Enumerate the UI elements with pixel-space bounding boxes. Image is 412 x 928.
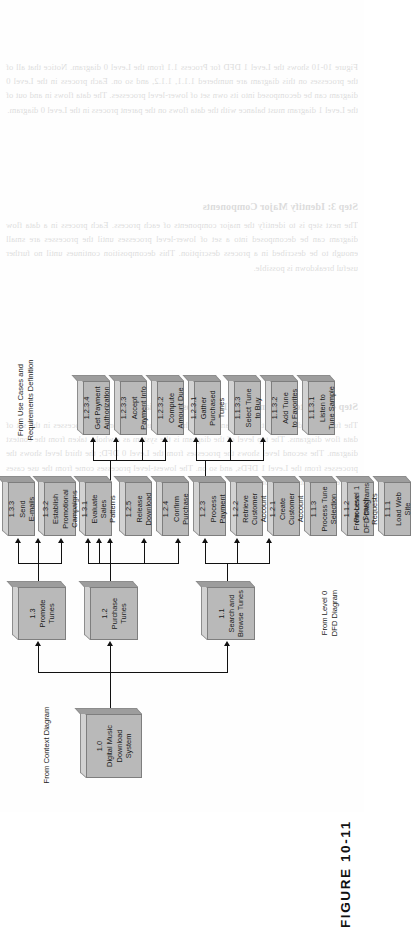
node-title: Establish Promotional Campaigns <box>51 489 79 528</box>
node-title: Retrieve Customer Account <box>241 485 269 533</box>
node-1-2-3[interactable]: 1.2.3 Process Payment <box>193 482 226 536</box>
node-1-3[interactable]: 1.3 Promote Tunes <box>12 587 66 640</box>
node-number: 1.1.2 <box>342 501 351 517</box>
connector-to-1-1-3 <box>205 542 206 564</box>
node-face: 1.2.5 Release Download <box>125 482 152 536</box>
node-title: Send E-mails <box>18 497 36 522</box>
arrow-to-1-2 <box>107 641 113 646</box>
node-1-1-3-3[interactable]: 1.1.3.3 Select Tune to Buy <box>228 381 261 435</box>
connector-to-1-3-1 <box>61 542 62 564</box>
node-title: Accept Payment Info <box>130 386 148 430</box>
node-title: Gather Purchased Tunes <box>199 384 227 432</box>
node-1-2-3-2[interactable]: 1.2.3.2 Compute Amount Due <box>151 381 184 435</box>
node-1-2-1[interactable]: 1.2.1 Create Customer Account <box>267 482 300 536</box>
arrow-to-1-2-3-3 <box>113 437 119 442</box>
node-number: 1.2.3.4 <box>82 397 91 420</box>
connector-to-1-3-3 <box>18 542 19 564</box>
arrow-to-1-1-1 <box>266 538 272 543</box>
connector-to-1-2-3-4 <box>93 441 94 461</box>
node-1-2-2[interactable]: 1.2.2 Retrieve Customer Account <box>230 482 263 536</box>
node-title: Load Web Site <box>394 492 412 526</box>
node-1-3-1[interactable]: 1.3.1 Evaluate Sales Patterns <box>79 482 112 536</box>
arrow-to-1-1-3-3 <box>193 437 199 442</box>
arrow-to-1-2-1 <box>175 538 181 543</box>
arrow-to-1-2-4 <box>96 538 102 543</box>
connector-to-1-1-3-2 <box>230 441 231 461</box>
node-title: Add Tune to Favorites <box>281 389 299 428</box>
connector-level1-spine <box>38 672 228 673</box>
node-title: Select Tune to Buy <box>244 388 262 427</box>
node-number: 1.2.3.3 <box>119 397 128 420</box>
arrow-to-1-3 <box>35 641 41 646</box>
connector-to-1-1-1 <box>269 542 270 564</box>
node-number: 1.1.3 <box>309 501 318 517</box>
connector-to-1-2-3-2 <box>142 441 143 461</box>
node-1-1-3-1[interactable]: 1.1.3.1 Listen to Tune Sample <box>302 381 335 435</box>
node-1-2-3-4[interactable]: 1.2.3.4 Get Payment Authorization <box>77 381 110 435</box>
node-number: 1.2.3.2 <box>156 397 165 420</box>
node-1-2[interactable]: 1.2 Purchase Tunes <box>84 587 138 640</box>
node-1-0[interactable]: 1.0 Digital Music Download System <box>80 714 142 778</box>
connector-to-1-2-5 <box>88 542 89 564</box>
connector-to-1-1-3-1 <box>263 441 264 461</box>
node-title: Digital Music Download System <box>105 725 133 767</box>
node-face: 1.2.1 Create Customer Account <box>273 482 300 536</box>
arrow-to-1-2-3-1 <box>162 437 168 442</box>
node-1-1-3-2[interactable]: 1.1.3.2 Add Tune to Favorites <box>265 381 298 435</box>
connector-to-1-2-4 <box>99 542 100 564</box>
arrow-to-1-2-3-4 <box>90 437 96 442</box>
node-1-1-1[interactable]: 1.1.1 Load Web Site <box>378 482 411 536</box>
node-title: Create Customer Account <box>278 485 306 533</box>
connector-to-1-2-3-3 <box>116 441 117 461</box>
annotation-from-context-diagram: From Context Diagram <box>42 700 52 790</box>
connector-1-2-spine <box>88 563 178 564</box>
node-title: Confirm Purchase <box>172 493 190 524</box>
node-number: 1.2.5 <box>124 501 133 517</box>
node-number: 1.1.3.1 <box>307 397 316 420</box>
connector-to-1-2-3-1 <box>165 441 166 461</box>
node-face: 1.3 Promote Tunes <box>18 587 66 640</box>
node-title: Compute Amount Due <box>167 387 185 428</box>
node-title: Listen to Tune Sample <box>318 386 336 430</box>
arrow-to-1-3-1 <box>58 538 64 543</box>
node-face: 1.2.3.3 Accept Payment Info <box>120 381 147 435</box>
connector-1-2-3-out <box>110 460 111 482</box>
node-title: Process Payment <box>209 494 227 523</box>
node-1-2-5[interactable]: 1.2.5 Release Download <box>119 482 152 536</box>
node-1-3-3[interactable]: 1.3.3 Send E-mails <box>2 482 35 536</box>
arrow-to-1-3-2 <box>35 538 41 543</box>
node-number: 1.0 <box>95 741 104 751</box>
node-face: 1.2.3.4 Get Payment Authorization <box>83 381 110 435</box>
node-face: 1.2.3 Process Payment <box>199 482 226 536</box>
node-face: 1.1.1 Load Web Site <box>384 482 411 536</box>
node-1-1[interactable]: 1.1 Search and Browse Tunes <box>201 587 255 640</box>
node-face: 1.1.3.2 Add Tune to Favorites <box>271 381 298 435</box>
node-1-1-3[interactable]: 1.1.3 Process Tune Selection <box>304 482 337 536</box>
node-face: 1.1.3 Process Tune Selection <box>310 482 337 536</box>
figure-caption: FIGURE 10-11 <box>338 808 362 928</box>
arrow-to-1-1 <box>224 641 230 646</box>
node-1-2-3-1[interactable]: 1.2.3.1 Gather Purchased Tunes <box>188 381 221 435</box>
node-title: Get Payment Authorization <box>93 386 111 429</box>
node-1-2-4[interactable]: 1.2.4 Confirm Purchase <box>156 482 189 536</box>
node-title: Search and Browse Tunes <box>227 590 245 637</box>
arrow-to-1-1-3-1 <box>260 437 266 442</box>
annotation-from-level-1-dfd: From Level 1 DFD Diagrams <box>352 462 371 554</box>
node-1-2-3-3[interactable]: 1.2.3.3 Accept Payment Info <box>114 381 147 435</box>
node-title: Release Download <box>135 493 153 526</box>
node-face: 1.3.1 Evaluate Sales Patterns <box>85 482 112 536</box>
arrow-to-1-1-3-2 <box>227 437 233 442</box>
node-title: Evaluate Sales Patterns <box>90 485 118 533</box>
annotation-from-use-cases: From Use Cases and Requirements Definiti… <box>16 340 35 460</box>
node-number: 1.1.3.2 <box>270 397 279 420</box>
connector-to-1-2-3 <box>110 542 111 564</box>
node-face: 1.1 Search and Browse Tunes <box>207 587 255 640</box>
node-face: 1.2.3.1 Gather Purchased Tunes <box>194 381 221 435</box>
arrow-to-1-2-2 <box>141 538 147 543</box>
node-number: 1.2.4 <box>161 501 170 517</box>
connector-to-1-1-3-3 <box>196 441 197 461</box>
node-number: 1.2 <box>100 608 109 618</box>
node-1-3-2[interactable]: 1.3.2 Establish Promotional Campaigns <box>38 482 76 536</box>
connector-to-1-3 <box>38 645 39 673</box>
